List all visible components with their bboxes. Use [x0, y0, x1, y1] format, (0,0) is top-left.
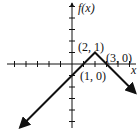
x-axis-label: x [130, 63, 137, 77]
annotation-root-right: (3, 0) [106, 51, 132, 65]
annotation-peak: (2, 1) [78, 40, 104, 54]
y-axis-label: f(x) [78, 1, 95, 15]
annotation-root-left: (1, 0) [80, 69, 106, 83]
function-graph: f(x) x (2, 1) (3, 0) (1, 0) [0, 0, 140, 129]
